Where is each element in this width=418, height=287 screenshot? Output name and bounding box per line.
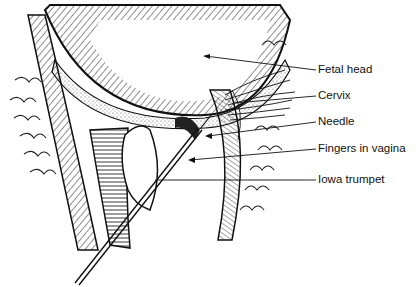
label-fingers-in-vagina: Fingers in vagina: [318, 143, 406, 155]
label-cervix: Cervix: [318, 90, 351, 102]
label-needle: Needle: [318, 116, 354, 128]
label-fetal-head: Fetal head: [318, 64, 372, 76]
label-iowa-trumpet: Iowa trumpet: [318, 174, 384, 186]
